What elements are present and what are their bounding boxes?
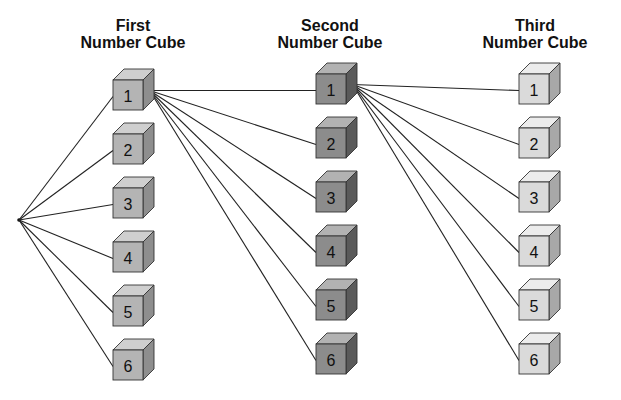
first-cube-1: 1 xyxy=(113,69,154,110)
cube-label: 3 xyxy=(327,190,336,207)
edge-root-to-first-6 xyxy=(19,220,113,367)
third-cube-1: 1 xyxy=(519,63,560,104)
first-cube-5: 5 xyxy=(113,285,154,326)
edge-first1-to-second-3 xyxy=(150,91,316,199)
first-cube-6: 6 xyxy=(113,339,154,380)
cube-label: 4 xyxy=(327,244,336,261)
cube-label: 2 xyxy=(530,136,539,153)
cube-label: 4 xyxy=(530,244,539,261)
edge-first1-to-second-5 xyxy=(150,91,316,307)
edge-second1-to-third-5 xyxy=(353,85,519,307)
edge-first1-to-second-2 xyxy=(150,91,316,145)
cube-label: 5 xyxy=(530,298,539,315)
tree-diagram: 123456123456123456 xyxy=(0,0,621,400)
edge-root-to-first-3 xyxy=(19,205,113,221)
second-cube-4: 4 xyxy=(316,225,357,266)
second-cube-6: 6 xyxy=(316,333,357,374)
cube-label: 6 xyxy=(530,352,539,369)
edge-second1-to-third-1 xyxy=(353,85,519,91)
second-cube-5: 5 xyxy=(316,279,357,320)
cube-label: 2 xyxy=(327,136,336,153)
edge-root-to-first-2 xyxy=(19,151,113,221)
cube-label: 1 xyxy=(530,82,539,99)
edge-first1-to-second-6 xyxy=(150,91,316,361)
third-cube-3: 3 xyxy=(519,171,560,212)
edge-second1-to-third-3 xyxy=(353,85,519,199)
edge-second1-to-third-2 xyxy=(353,85,519,145)
second-cube-1: 1 xyxy=(316,63,357,104)
edge-root-to-first-1 xyxy=(19,97,113,221)
cube-label: 5 xyxy=(327,298,336,315)
cube-label: 1 xyxy=(124,88,133,105)
second-cube-3: 3 xyxy=(316,171,357,212)
edge-second1-to-third-4 xyxy=(353,85,519,253)
edge-first1-to-second-4 xyxy=(150,91,316,253)
edge-second1-to-third-6 xyxy=(353,85,519,361)
second-cube-2: 2 xyxy=(316,117,357,158)
third-cube-6: 6 xyxy=(519,333,560,374)
cube-label: 3 xyxy=(530,190,539,207)
cube-label: 4 xyxy=(124,250,133,267)
first-cube-2: 2 xyxy=(113,123,154,164)
first-cube-3: 3 xyxy=(113,177,154,218)
edges xyxy=(17,85,519,367)
cube-label: 5 xyxy=(124,304,133,321)
third-cube-2: 2 xyxy=(519,117,560,158)
cube-label: 2 xyxy=(124,142,133,159)
cube-label: 6 xyxy=(327,352,336,369)
cube-label: 6 xyxy=(124,358,133,375)
cube-label: 1 xyxy=(327,82,336,99)
third-cube-4: 4 xyxy=(519,225,560,266)
edge-root-to-first-4 xyxy=(19,220,113,259)
first-cube-4: 4 xyxy=(113,231,154,272)
edge-root-to-first-5 xyxy=(19,220,113,313)
third-cube-5: 5 xyxy=(519,279,560,320)
cube-label: 3 xyxy=(124,196,133,213)
